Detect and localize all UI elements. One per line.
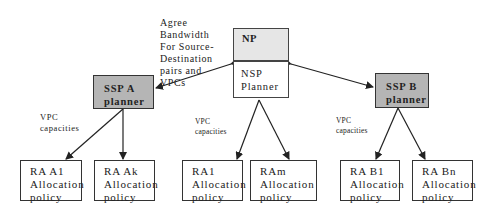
- agreement-label-line: pairs and: [160, 65, 214, 77]
- ra-label: policy: [30, 191, 81, 204]
- arrow-nsp-ra1: [237, 100, 259, 159]
- arrow-ssp-b-ra-b1: [376, 108, 398, 159]
- ra-label: Allocation: [192, 178, 242, 191]
- ra-label: RA1: [192, 165, 242, 178]
- nsp-planner-section: NSP Planner: [234, 64, 288, 97]
- ra-b1-box: RA B1 Allocation policy: [340, 160, 400, 201]
- nsp-label: NSP: [241, 67, 288, 80]
- ra-label: Allocation: [104, 178, 154, 191]
- agreement-label-line: VPCs: [160, 77, 214, 89]
- vpc-capacities-label-b: VPC capacities: [336, 116, 368, 136]
- agreement-label: Agree Bandwidth For Source- Destination …: [160, 17, 214, 89]
- ra-m-box: RAm Allocation policy: [250, 160, 317, 201]
- ssp-b-label: planner: [386, 93, 428, 106]
- ra-ak-box: RA Ak Allocation policy: [94, 160, 155, 201]
- np-section: NP: [234, 29, 288, 62]
- vpc-capacities-label-nsp: VPC capacities: [195, 117, 227, 137]
- ssp-b-planner-box: SSP B planner: [375, 73, 429, 108]
- ra-label: Allocation: [422, 178, 472, 191]
- ra-label: RA Bn: [422, 165, 472, 178]
- agreement-label-line: Agree: [160, 17, 214, 29]
- ra-label: policy: [260, 191, 316, 204]
- arrow-np-ssp-b: [291, 64, 373, 87]
- ra-label: RA B1: [350, 165, 399, 178]
- vpc-label-line: capacities: [40, 123, 80, 134]
- ra-bn-box: RA Bn Allocation policy: [412, 160, 473, 201]
- ra-a1-box: RA A1 Allocation policy: [20, 160, 82, 201]
- ra-label: Allocation: [350, 178, 399, 191]
- ssp-b-label: SSP B: [386, 80, 428, 93]
- vpc-label-line: VPC: [336, 116, 368, 126]
- ra-label: Allocation: [260, 178, 316, 191]
- nsp-label: Planner: [241, 80, 288, 93]
- agreement-label-line: Destination: [160, 53, 214, 65]
- ra-label: policy: [350, 191, 399, 204]
- arrow-ssp-b-ra-bn: [398, 108, 425, 159]
- vpc-label-line: VPC: [195, 117, 227, 127]
- ra-label: RA A1: [30, 165, 81, 178]
- ssp-a-label: planner: [104, 95, 153, 108]
- np-label: NP: [242, 33, 257, 44]
- ra-label: policy: [104, 191, 154, 204]
- ra-label: policy: [192, 191, 242, 204]
- vpc-label-line: capacities: [336, 126, 368, 136]
- ssp-a-label: SSP A: [104, 82, 153, 95]
- ra-label: RA Ak: [104, 165, 154, 178]
- arrow-nsp-ram: [259, 100, 289, 159]
- ra-label: Allocation: [30, 178, 81, 191]
- np-nsp-planner-box: NP NSP Planner: [233, 28, 289, 98]
- vpc-label-line: capacities: [195, 127, 227, 137]
- ra-label: policy: [422, 191, 472, 204]
- agreement-label-line: Bandwidth: [160, 29, 214, 41]
- ssp-a-planner-box: SSP A planner: [93, 75, 154, 109]
- agreement-label-line: For Source-: [160, 41, 214, 53]
- vpc-label-line: VPC: [40, 112, 80, 123]
- ra-label: RAm: [260, 165, 316, 178]
- vpc-capacities-label-a: VPC capacities: [40, 112, 80, 134]
- ra-1-box: RA1 Allocation policy: [182, 160, 243, 201]
